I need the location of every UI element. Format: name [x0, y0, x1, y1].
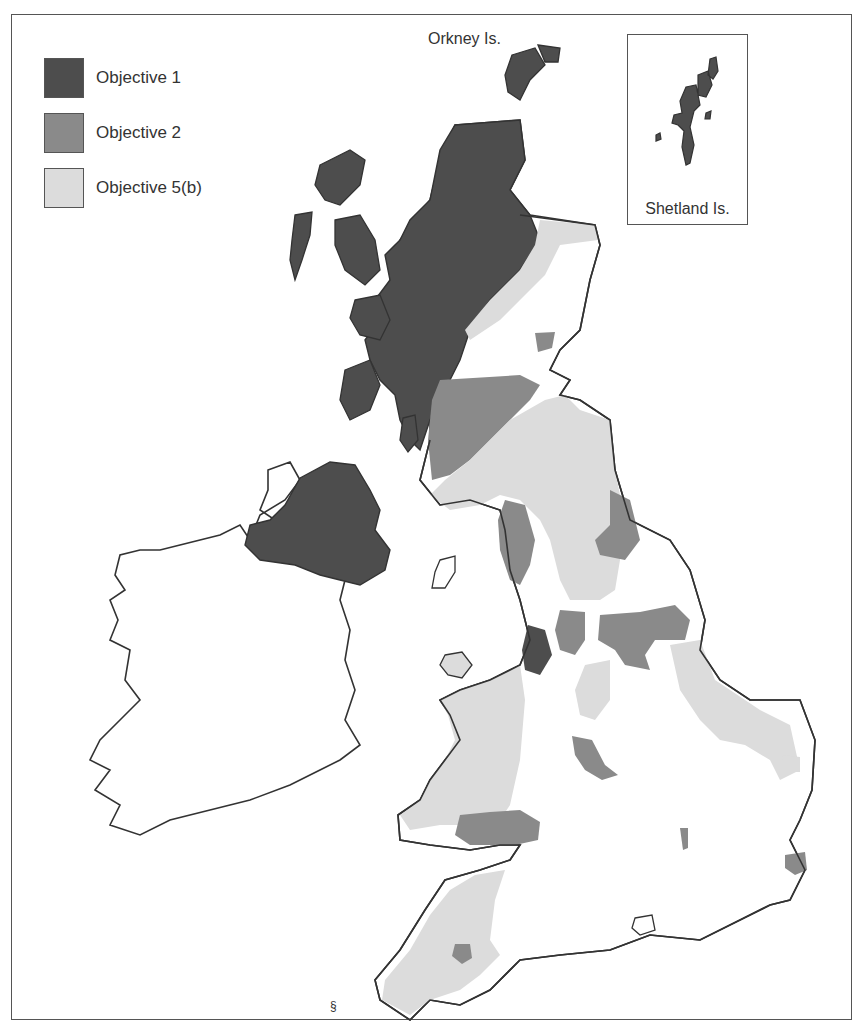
legend-item-objective-5b: Objective 5(b) [44, 168, 202, 208]
legend: Objective 1 Objective 2 Objective 5(b) [44, 58, 202, 223]
hebrides-objective-1 [315, 150, 365, 205]
objective-2-swatch [44, 113, 84, 153]
outer-isles-objective-1 [290, 212, 312, 280]
skye-objective-1 [335, 215, 380, 285]
objective-1-swatch [44, 58, 84, 98]
arran-objective-1 [400, 415, 418, 452]
legend-label: Objective 5(b) [96, 178, 202, 198]
orkney-label: Orkney Is. [428, 30, 501, 48]
isle-of-man [432, 556, 455, 588]
legend-label: Objective 2 [96, 123, 181, 143]
shetland-small-island [705, 111, 711, 119]
objective-5b-swatch [44, 168, 84, 208]
legend-item-objective-2: Objective 2 [44, 113, 202, 153]
scilly-isles-mark: § [330, 999, 337, 1013]
shetland-map [628, 35, 749, 226]
suffolk-objective-5b [782, 755, 800, 772]
orkney-objective-1 [505, 48, 545, 100]
legend-item-objective-1: Objective 1 [44, 58, 202, 98]
legend-label: Objective 1 [96, 68, 181, 88]
islay-objective-1 [340, 360, 380, 420]
shetland-label: Shetland Is. [628, 200, 747, 218]
south-wales-objective-2 [455, 810, 540, 845]
shetland-small-island [656, 133, 661, 141]
shetland-inset: Shetland Is. [627, 34, 748, 225]
anglesey [440, 652, 472, 678]
